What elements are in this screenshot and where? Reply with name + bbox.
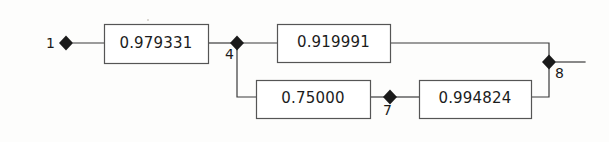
block-4-value: 0.994824 [419,91,531,106]
node-8-diamond [542,55,556,70]
block-1-value: 0.979331 [104,36,208,51]
block-2-value: 0.919991 [277,35,390,50]
conn-block4-node8 [531,68,549,97]
block-3-value: 0.75000 [256,91,370,106]
node-4-label: 4 [225,47,234,61]
node-1-diamond [59,36,73,51]
diagram-canvas [0,0,609,142]
node-7-label: 7 [383,103,392,117]
reliability-block-diagram: 0.9793310.9199910.750000.994824 1478 [0,0,609,142]
conn-block2-node8 [390,43,549,56]
scan-speck [147,19,149,21]
node-1-label: 1 [46,36,55,50]
node-8-label: 8 [555,66,564,80]
conn-node4-block3 [237,49,256,97]
